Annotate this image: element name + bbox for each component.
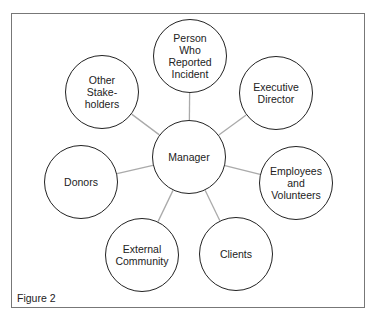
edge-executive-director (219, 115, 246, 135)
edge-other-stakeholders (132, 114, 160, 135)
edge-clients (205, 190, 220, 220)
node-executive-director: Executive Director (239, 56, 313, 130)
node-donors: Donors (44, 145, 118, 219)
edge-employees-volunteers (225, 166, 260, 175)
edge-donors (117, 165, 153, 173)
edge-external-community (158, 190, 173, 221)
node-other-stakeholders: Other Stake- holders (65, 55, 139, 129)
node-manager: Manager (152, 120, 226, 194)
node-clients: Clients (199, 217, 273, 291)
node-external-community: External Community (105, 218, 179, 292)
figure-caption: Figure 2 (17, 292, 56, 304)
node-employees-volunteers: Employees and Volunteers (259, 146, 333, 220)
node-person-who-reported: Person Who Reported Incident (153, 19, 227, 93)
